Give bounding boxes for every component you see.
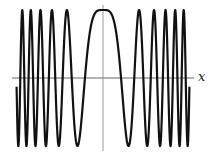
chart-plot-area bbox=[0, 0, 216, 154]
x-axis-label: x bbox=[198, 69, 205, 84]
